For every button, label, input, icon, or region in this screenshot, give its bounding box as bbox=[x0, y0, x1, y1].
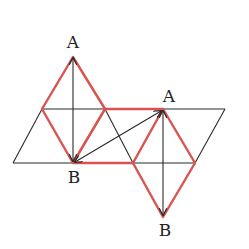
left-edge bbox=[13, 109, 42, 163]
red-net-outline bbox=[42, 57, 195, 217]
label-a-left: A bbox=[67, 34, 79, 51]
diagram-canvas: A B A B bbox=[0, 0, 249, 249]
left-inner-edge bbox=[73, 109, 105, 163]
label-a-right: A bbox=[163, 88, 175, 105]
right-edge bbox=[195, 109, 225, 163]
label-b-right: B bbox=[159, 222, 172, 239]
label-b-left: B bbox=[68, 169, 81, 186]
geometry-figure bbox=[0, 0, 249, 249]
